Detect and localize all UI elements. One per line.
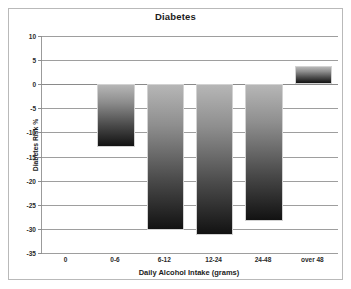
bar[interactable]: [147, 84, 184, 230]
y-tick-mark: [38, 253, 42, 254]
bar-slot[interactable]: [289, 36, 338, 253]
y-tick-label: -35: [27, 250, 36, 257]
bar[interactable]: [97, 84, 134, 147]
y-tick-label: 5: [32, 57, 36, 64]
y-tick-label: -15: [27, 153, 36, 160]
x-tick-label: 24-48: [255, 256, 272, 263]
x-tick-label: over 48: [301, 256, 324, 263]
y-tick-label: -5: [30, 105, 36, 112]
gridline: [42, 253, 338, 254]
bar-slot[interactable]: [239, 36, 288, 253]
bar-slot[interactable]: [42, 36, 91, 253]
x-tick-label: 0: [64, 256, 68, 263]
plot-area: Diabetes Risk % 1050-5-10-15-20-25-30-35: [41, 36, 337, 253]
y-tick-label: 0: [32, 81, 36, 88]
x-tick-label: 12-24: [205, 256, 222, 263]
y-tick-label: -10: [27, 129, 36, 136]
y-axis-title: Diabetes Risk %: [32, 118, 39, 171]
x-tick-label: 0-6: [110, 256, 119, 263]
bar[interactable]: [295, 66, 332, 84]
y-tick-label: -20: [27, 177, 36, 184]
chart-title: Diabetes: [8, 11, 343, 22]
x-axis-ticks: 00-66-1212-2424-48over 48: [41, 256, 337, 268]
bar-slot[interactable]: [91, 36, 140, 253]
bar[interactable]: [196, 84, 233, 235]
y-tick-label: -30: [27, 225, 36, 232]
x-tick-label: 6-12: [158, 256, 171, 263]
chart-figure: Diabetes Diabetes Risk % 1050-5-10-15-20…: [0, 0, 351, 289]
bar-slot[interactable]: [190, 36, 239, 253]
bar-slot[interactable]: [141, 36, 190, 253]
bar-series: [42, 36, 338, 253]
y-tick-label: -25: [27, 201, 36, 208]
bar[interactable]: [245, 84, 282, 220]
y-tick-label: 10: [29, 33, 36, 40]
x-axis-title: Daily Alcohol Intake (grams): [41, 268, 337, 277]
